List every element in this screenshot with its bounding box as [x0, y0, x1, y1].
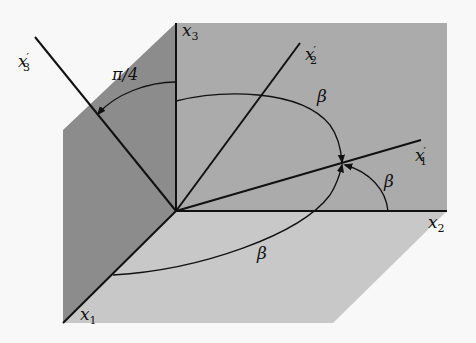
- x3-label: x3: [182, 22, 199, 42]
- x1-label: x1: [80, 306, 97, 326]
- x1-prime-label: x′1: [415, 146, 427, 167]
- pi-over-4-label: π/4: [112, 67, 138, 83]
- rotation-diagram: x3 x2 x1 x′3 x′2 x′1 π/4 β β β: [0, 0, 476, 343]
- diagram-canvas: [0, 0, 476, 343]
- x3-prime-label: x′3: [18, 52, 30, 73]
- beta-lower-label: β: [257, 245, 267, 262]
- x2-prime-label: x′2: [305, 45, 317, 66]
- beta-upper-label: β: [317, 88, 327, 105]
- beta-right-label: β: [384, 173, 394, 190]
- x2-label: x2: [428, 214, 445, 234]
